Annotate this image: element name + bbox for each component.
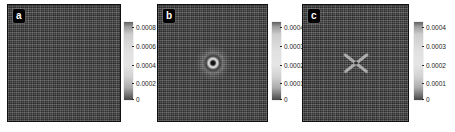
colorbar-c-tick: 0.0002 (426, 62, 446, 69)
heatmap-panel-c: c (302, 4, 409, 122)
colorbar-b-tick: 0.0001 (284, 80, 304, 87)
panel-label-c: c (308, 9, 320, 23)
colorbar-c-tick: 0.0004 (426, 24, 446, 31)
panel-label-a: a (13, 9, 25, 23)
colorbar-c-tick: 0.0003 (426, 43, 446, 50)
colorbar-c-tick: 0.0001 (426, 80, 446, 87)
x-cross-defect (341, 51, 371, 75)
x-cross-center (354, 62, 358, 65)
vortex-defect (195, 45, 231, 81)
colorbar-c (414, 22, 423, 100)
colorbar-a-tick: 0.0002 (136, 80, 156, 87)
colorbar-a-tick: 0.0008 (136, 24, 156, 31)
colorbar-b-tick: 0.0004 (284, 24, 304, 31)
heatmap-panel-b: b (157, 4, 268, 122)
three-panel-heatmap-figure: a 0.0008 0.0006 0.0004 0.0002 0 b 0.0004… (0, 0, 455, 132)
colorbar-b-tick: 0 (284, 96, 288, 103)
colorbar-a-tick: 0.0004 (136, 62, 156, 69)
colorbar-a (124, 22, 133, 100)
colorbar-b-tick: 0.0003 (284, 43, 304, 50)
colorbar-b-tick: 0.0002 (284, 62, 304, 69)
heatmap-panel-a: a (7, 4, 121, 122)
colorbar-c-tick: 0 (426, 96, 430, 103)
colorbar-ticks-c: 0.0004 0.0003 0.0002 0.0001 0 (426, 22, 455, 100)
colorbar-b (272, 22, 281, 100)
colorbar-a-tick: 0 (136, 96, 140, 103)
panel-label-b: b (163, 9, 175, 23)
colorbar-a-tick: 0.0006 (136, 43, 156, 50)
